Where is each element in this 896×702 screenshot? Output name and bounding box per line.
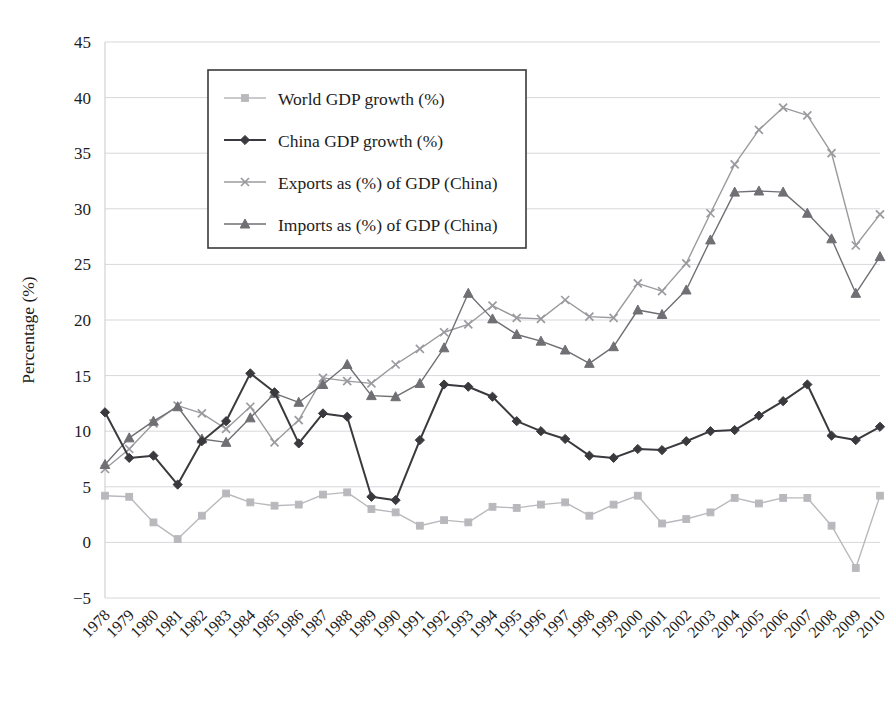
legend-item-label: China GDP growth (%) [278, 131, 443, 151]
x-tick-label: 2010 [853, 606, 888, 641]
data-point-marker [100, 408, 109, 417]
data-point-marker [706, 427, 715, 436]
y-axis-title: Percentage (%) [18, 276, 38, 384]
data-point-marker [852, 565, 859, 572]
legend-item-label: Exports as (%) of GDP (China) [278, 173, 498, 193]
data-point-marker [755, 126, 763, 134]
data-point-marker [513, 505, 520, 512]
data-point-marker [731, 495, 738, 502]
data-point-marker [779, 104, 787, 112]
data-point-marker [416, 345, 424, 353]
chart-canvas: 454035302520151050−5 1978197919801981198… [0, 0, 896, 702]
data-point-marker [367, 492, 376, 501]
y-axis-tick-labels: 454035302520151050−5 [73, 33, 91, 608]
data-point-marker [344, 489, 351, 496]
data-point-marker [754, 411, 763, 420]
data-point-marker [683, 516, 690, 523]
y-tick-label: 45 [74, 33, 91, 52]
x-axis-tick-labels: 1978197919801981198219831984198519861987… [78, 606, 888, 641]
data-point-marker [489, 503, 496, 510]
data-point-marker [489, 302, 497, 310]
data-point-marker [707, 509, 714, 516]
data-point-marker [198, 409, 206, 417]
data-point-marker [343, 412, 352, 421]
data-point-marker [731, 160, 739, 168]
data-point-marker [609, 342, 619, 351]
series-0 [102, 489, 884, 571]
data-point-marker [512, 329, 522, 338]
gdp-trade-line-chart: 454035302520151050−5 1978197919801981198… [0, 0, 896, 702]
data-point-marker [659, 520, 666, 527]
data-point-marker [706, 235, 716, 244]
data-point-marker [150, 519, 157, 526]
data-point-marker [368, 506, 375, 513]
data-point-marker [851, 435, 860, 444]
data-point-marker [877, 492, 884, 499]
data-point-marker [706, 209, 714, 217]
data-point-marker [538, 501, 545, 508]
data-point-marker [827, 431, 836, 440]
data-point-marker [634, 492, 641, 499]
data-point-marker [633, 305, 643, 314]
data-point-marker [415, 435, 424, 444]
data-point-marker [610, 501, 617, 508]
data-point-marker [102, 492, 109, 499]
y-tick-label: 30 [74, 200, 91, 219]
data-point-marker [295, 501, 302, 508]
y-tick-label: 35 [74, 144, 91, 163]
data-point-marker [271, 502, 278, 509]
data-point-marker [415, 378, 425, 387]
y-tick-label: 20 [74, 311, 91, 330]
data-point-marker [562, 499, 569, 506]
data-point-marker [681, 285, 691, 294]
data-point-marker [585, 358, 595, 367]
chart-legend: World GDP growth (%)China GDP growth (%)… [208, 70, 526, 248]
data-point-marker [223, 490, 230, 497]
data-point-marker [875, 252, 885, 261]
data-point-marker [391, 496, 400, 505]
data-point-marker [634, 279, 642, 287]
data-point-marker [536, 427, 545, 436]
y-tick-label: 25 [74, 255, 91, 274]
data-point-marker [465, 519, 472, 526]
data-point-marker [174, 536, 181, 543]
y-tick-label: 5 [83, 478, 92, 497]
data-point-marker [803, 111, 811, 119]
data-point-marker [439, 380, 448, 389]
legend-item-label: World GDP growth (%) [278, 89, 445, 109]
data-point-marker [247, 499, 254, 506]
data-point-marker [658, 287, 666, 295]
y-tick-label: 10 [74, 422, 91, 441]
data-point-marker [392, 360, 400, 368]
data-point-marker [441, 517, 448, 524]
data-point-marker [320, 491, 327, 498]
data-point-marker [586, 512, 593, 519]
data-point-marker [875, 422, 884, 431]
data-point-marker [242, 95, 249, 102]
data-point-marker [271, 438, 279, 446]
y-tick-label: 15 [74, 367, 91, 386]
data-point-marker [126, 493, 133, 500]
data-point-marker [125, 453, 134, 462]
data-point-marker [246, 403, 254, 411]
data-point-marker [804, 495, 811, 502]
data-point-marker [463, 288, 473, 297]
data-point-marker [657, 446, 666, 455]
data-point-marker [392, 509, 399, 516]
data-point-marker [756, 500, 763, 507]
data-point-marker [682, 259, 690, 267]
data-point-marker [440, 328, 448, 336]
data-point-marker [439, 343, 449, 352]
data-point-marker [682, 437, 691, 446]
data-point-marker [416, 522, 423, 529]
data-point-marker [828, 522, 835, 529]
data-point-marker [876, 210, 884, 218]
data-point-marker [124, 433, 134, 442]
legend-item-label: Imports as (%) of GDP (China) [278, 215, 498, 235]
data-point-marker [464, 320, 472, 328]
data-point-marker [295, 416, 303, 424]
y-tick-label: −5 [73, 589, 91, 608]
data-point-marker [730, 425, 739, 434]
data-point-marker [342, 359, 352, 368]
data-point-marker [633, 444, 642, 453]
